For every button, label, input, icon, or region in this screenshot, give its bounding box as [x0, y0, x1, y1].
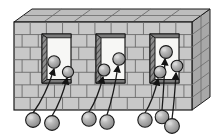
- sphere-highlight: [48, 119, 52, 122]
- sphere-body: [82, 112, 96, 126]
- opening-left-reveal: [96, 34, 101, 83]
- inner-sphere-3: [98, 64, 110, 76]
- sphere-highlight: [29, 116, 33, 119]
- outer-sphere-7: [165, 119, 180, 134]
- inner-sphere-6: [154, 66, 166, 78]
- sphere-body: [98, 64, 110, 76]
- opening-sill: [96, 80, 125, 84]
- outer-sphere-5: [138, 113, 152, 127]
- outer-sphere-3: [82, 112, 96, 126]
- sphere-highlight: [156, 69, 160, 72]
- sphere-highlight: [50, 59, 54, 62]
- outer-sphere-2: [45, 116, 60, 131]
- sphere-highlight: [168, 122, 172, 125]
- sphere-body: [62, 66, 73, 77]
- opening-head: [96, 34, 125, 38]
- inner-sphere-4: [113, 53, 125, 65]
- inner-sphere-7: [171, 60, 183, 72]
- illustration-canvas: [0, 0, 217, 139]
- sphere-body: [113, 53, 125, 65]
- inner-sphere-5: [160, 46, 173, 59]
- sphere-highlight: [103, 118, 107, 121]
- sphere-highlight: [174, 63, 177, 66]
- sphere-highlight: [100, 67, 104, 70]
- sphere-highlight: [158, 113, 162, 116]
- brick-wall-scene: [0, 0, 217, 139]
- inner-sphere-1: [48, 56, 60, 68]
- sphere-body: [26, 113, 41, 128]
- sphere-body: [154, 66, 166, 78]
- sphere-highlight: [65, 69, 68, 71]
- opening-left-reveal: [150, 34, 155, 83]
- sphere-body: [160, 46, 173, 59]
- outer-sphere-1: [26, 113, 41, 128]
- opening-left-reveal: [42, 34, 47, 83]
- opening-head: [150, 34, 179, 38]
- sphere-body: [171, 60, 183, 72]
- sphere-body: [45, 116, 60, 131]
- sphere-highlight: [141, 116, 145, 119]
- outer-spheres: [26, 110, 180, 133]
- inner-sphere-2: [62, 66, 73, 77]
- sphere-highlight: [115, 56, 119, 59]
- sphere-body: [165, 119, 180, 134]
- sphere-body: [48, 56, 60, 68]
- opening-head: [42, 34, 71, 38]
- sphere-highlight: [162, 48, 166, 51]
- sphere-body: [100, 115, 114, 129]
- outer-sphere-4: [100, 115, 114, 129]
- sphere-highlight: [85, 115, 89, 118]
- sphere-body: [138, 113, 152, 127]
